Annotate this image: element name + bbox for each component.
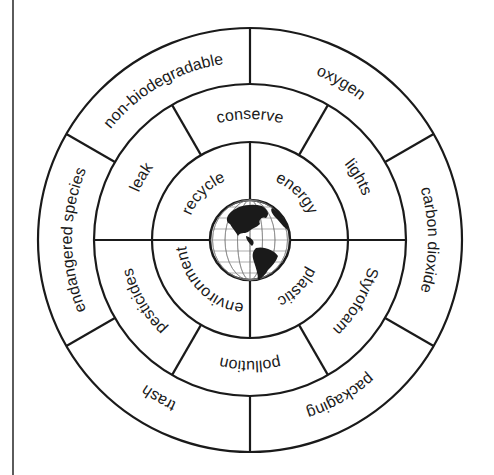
label-middle: Styrofoam — [330, 266, 382, 339]
label-middle: leak — [126, 158, 156, 194]
label-outer: trash — [138, 382, 178, 415]
label-middle: pollution — [217, 354, 282, 375]
divider-line — [66, 318, 115, 346]
word-wheel-diagram: recycleenergyplasticenvironmentconservel… — [0, 0, 494, 475]
label-outer: oxygen — [315, 62, 369, 103]
divider-line — [299, 325, 328, 375]
divider-line — [66, 134, 115, 162]
label-outer: packaging — [305, 371, 378, 423]
label-inner: plastic — [275, 265, 320, 310]
label-middle: lights — [342, 155, 376, 197]
label-inner: recycle — [178, 168, 227, 217]
divider-line — [299, 105, 328, 155]
divider-line — [172, 325, 201, 375]
divider-line — [385, 134, 434, 162]
globe-icon — [210, 200, 290, 280]
label-inner: energy — [274, 168, 322, 216]
divider-line — [385, 318, 434, 346]
divider-line — [172, 105, 201, 155]
label-middle: conserve — [215, 105, 286, 126]
label-outer: carbon dioxide — [418, 185, 442, 295]
label-outer: endangered species — [58, 165, 89, 316]
label-middle: pesticides — [119, 267, 170, 338]
